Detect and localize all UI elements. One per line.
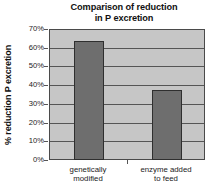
x-axis-category-label: geneticallymodified <box>49 165 127 183</box>
y-axis-title-text: % reduction P excretion <box>3 44 13 144</box>
x-axis-category-label: enzyme addedto feed <box>127 165 205 183</box>
bar <box>152 90 182 160</box>
bar-chart: Comparison of reduction in P excretion %… <box>0 0 213 195</box>
y-axis-tick-label: 20% <box>18 119 44 127</box>
y-axis-tick-label: 0% <box>18 156 44 164</box>
y-axis-tick-mark <box>44 85 48 86</box>
x-axis-category-label-line: enzyme added <box>127 165 205 174</box>
y-axis-tick-mark <box>44 104 48 105</box>
y-axis-tick-mark <box>44 48 48 49</box>
y-axis-tick-label: 30% <box>18 100 44 108</box>
x-axis-category-label-line: genetically <box>49 165 127 174</box>
plot-area <box>49 29 205 160</box>
chart-title-line-2: in P excretion <box>40 13 208 24</box>
x-axis-category-label-line: to feed <box>127 174 205 183</box>
y-axis-title: % reduction P excretion <box>0 29 16 160</box>
y-axis-tick-labels: 0%10%20%30%40%50%60%70% <box>17 0 44 195</box>
y-axis-tick-mark <box>44 141 48 142</box>
chart-title-line-1: Comparison of reduction <box>40 2 208 13</box>
y-axis-tick-label: 60% <box>18 44 44 52</box>
y-axis-tick-mark <box>44 160 48 161</box>
y-axis-tick-label: 70% <box>18 25 44 33</box>
chart-title: Comparison of reduction in P excretion <box>40 2 208 23</box>
y-axis-tick-label: 50% <box>18 62 44 70</box>
x-axis-tick-mark <box>127 160 128 164</box>
y-axis-tick-mark <box>44 66 48 67</box>
y-axis-tick-mark <box>44 123 48 124</box>
y-axis-tick-label: 10% <box>18 137 44 145</box>
bar <box>74 41 104 160</box>
y-axis-tick-mark <box>44 29 48 30</box>
y-axis-tick-label: 40% <box>18 81 44 89</box>
x-axis-category-label-line: modified <box>49 174 127 183</box>
